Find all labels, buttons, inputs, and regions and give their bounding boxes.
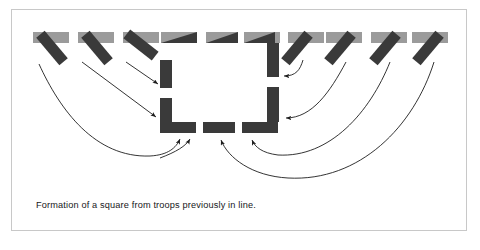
square-right-lower (267, 87, 279, 122)
arrow-3 (126, 62, 158, 84)
square-left-upper (160, 60, 172, 88)
square-right-upper (267, 43, 279, 77)
arrow-1 (39, 64, 180, 156)
square-bottom-mid-2 (242, 122, 278, 133)
figure-root: Formation of a square from troops previo… (0, 0, 480, 250)
square-bottom-left (160, 122, 196, 133)
arrow-bottom-mid (160, 139, 190, 158)
arrow-8 (286, 62, 346, 118)
figure-diagram (0, 0, 480, 250)
arrow-group (39, 60, 434, 178)
arrow-10 (221, 62, 434, 178)
square-bottom-mid-1 (203, 122, 235, 133)
square-formation-group (160, 43, 279, 133)
arrow-2 (82, 62, 156, 117)
